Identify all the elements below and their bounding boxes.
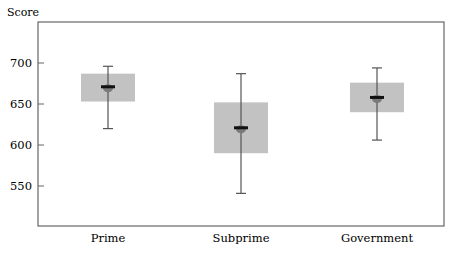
y-axis-label: Score [7,6,39,19]
box-government [350,68,404,140]
x-category-label: Prime [91,231,126,245]
median-bar [101,85,115,88]
y-tick-label: 550 [10,179,32,193]
box-prime [81,66,135,128]
x-axis-categories: PrimeSubprimeGovernment [91,231,414,245]
x-category-label: Subprime [213,231,270,245]
x-category-label: Government [341,231,413,245]
median-bar [234,126,248,129]
y-axis-ticks: 550600650700 [10,56,44,193]
box-plot-chart: Score 550600650700 PrimeSubprimeGovernme… [0,0,452,253]
box-subprime [214,74,268,194]
y-tick-label: 600 [10,138,32,152]
y-tick-label: 650 [10,97,32,111]
median-bar [370,96,384,99]
y-tick-label: 700 [10,56,32,70]
box-series [81,66,404,193]
